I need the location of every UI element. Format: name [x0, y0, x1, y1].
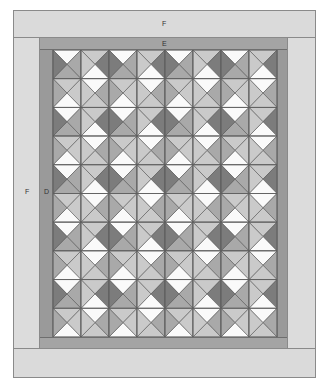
quilt-block	[249, 107, 277, 136]
quilt-block	[249, 50, 277, 79]
quilt-block	[221, 50, 249, 79]
quilt-block	[137, 222, 165, 251]
quilt-block	[221, 107, 249, 136]
quilt-block	[109, 251, 137, 280]
quilt-block	[221, 280, 249, 309]
quilt-block	[165, 79, 193, 108]
label-border-d-left: D	[44, 188, 49, 196]
quilt-block	[249, 280, 277, 309]
quilt-block	[81, 251, 109, 280]
quilt-block	[193, 136, 221, 165]
border-f-right	[287, 38, 316, 348]
border-e-bottom	[40, 337, 287, 348]
quilt-block	[165, 50, 193, 79]
quilt-block	[53, 136, 81, 165]
quilt-block	[193, 50, 221, 79]
quilt-block	[137, 50, 165, 79]
quilt-block	[81, 165, 109, 194]
quilt-block	[221, 79, 249, 108]
quilt-block	[137, 194, 165, 223]
quilt-block	[109, 165, 137, 194]
quilt-block	[109, 222, 137, 251]
quilt-block	[221, 308, 249, 337]
quilt-block	[53, 165, 81, 194]
quilt-block	[81, 308, 109, 337]
quilt-block	[53, 79, 81, 108]
quilt-block	[221, 165, 249, 194]
quilt-block	[165, 308, 193, 337]
quilt-block	[193, 107, 221, 136]
quilt-block	[81, 194, 109, 223]
label-border-f-top: F	[162, 20, 166, 28]
border-d-right	[277, 50, 287, 337]
quilt-block	[109, 308, 137, 337]
quilt-block	[193, 308, 221, 337]
quilt-block	[165, 251, 193, 280]
quilt-block	[137, 280, 165, 309]
quilt-block	[137, 107, 165, 136]
quilt-block	[249, 308, 277, 337]
quilt-block	[109, 280, 137, 309]
quilt-blocks-svg	[53, 50, 277, 337]
quilt-block	[137, 251, 165, 280]
quilt-block	[53, 50, 81, 79]
quilt-block	[109, 194, 137, 223]
quilt-block	[249, 79, 277, 108]
quilt-block	[221, 136, 249, 165]
quilt-block	[193, 251, 221, 280]
quilt-block	[221, 222, 249, 251]
quilt-block	[137, 136, 165, 165]
quilt-block	[53, 251, 81, 280]
quilt-block	[109, 136, 137, 165]
label-border-f-left: F	[25, 188, 29, 196]
quilt-block	[109, 107, 137, 136]
quilt-block	[81, 50, 109, 79]
quilt-block	[165, 136, 193, 165]
quilt-block	[249, 194, 277, 223]
quilt-block	[193, 222, 221, 251]
quilt-block	[53, 194, 81, 223]
quilt-block	[193, 194, 221, 223]
quilt-block	[249, 222, 277, 251]
quilt-block	[81, 136, 109, 165]
quilt-block	[165, 165, 193, 194]
quilt-block	[81, 107, 109, 136]
quilt-block	[81, 222, 109, 251]
quilt-block	[221, 194, 249, 223]
quilt-block	[81, 280, 109, 309]
quilt-block	[109, 79, 137, 108]
quilt-block	[53, 107, 81, 136]
quilt-block	[165, 107, 193, 136]
quilt-block	[137, 308, 165, 337]
quilt-block	[137, 79, 165, 108]
quilt-block	[109, 50, 137, 79]
quilt-block	[53, 222, 81, 251]
border-f-bottom	[13, 348, 316, 378]
quilt-block	[193, 280, 221, 309]
quilt-block	[193, 79, 221, 108]
quilt-block	[221, 251, 249, 280]
quilt-block-grid	[53, 50, 277, 337]
label-border-e-top: E	[162, 40, 167, 48]
quilt-block	[81, 79, 109, 108]
quilt-block	[249, 251, 277, 280]
quilt-block	[165, 280, 193, 309]
quilt-block	[165, 222, 193, 251]
quilt-block	[249, 165, 277, 194]
quilt-block	[53, 308, 81, 337]
quilt-block	[249, 136, 277, 165]
quilt-block	[137, 165, 165, 194]
quilt-block	[53, 280, 81, 309]
quilt-block	[165, 194, 193, 223]
quilt-block	[193, 165, 221, 194]
